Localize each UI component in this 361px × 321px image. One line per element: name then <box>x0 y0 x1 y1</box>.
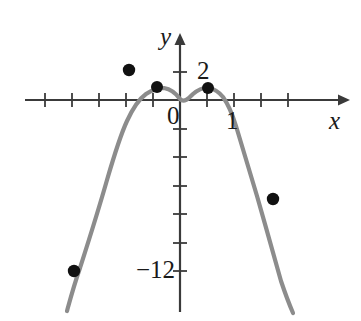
x-axis-label: x <box>329 108 340 133</box>
data-point[interactable] <box>68 265 80 277</box>
data-point[interactable] <box>123 64 135 76</box>
data-points-layer <box>0 0 361 321</box>
origin-label: 0 <box>167 103 180 128</box>
data-point[interactable] <box>267 193 279 205</box>
y-tick-label-minus-12: −12 <box>136 257 175 282</box>
y-tick-label-2: 2 <box>197 58 210 83</box>
graph-figure: y x 0 2 1 −12 <box>0 0 361 321</box>
x-tick-label-1: 1 <box>226 108 239 133</box>
y-axis-label: y <box>160 24 171 49</box>
data-point[interactable] <box>151 81 163 93</box>
